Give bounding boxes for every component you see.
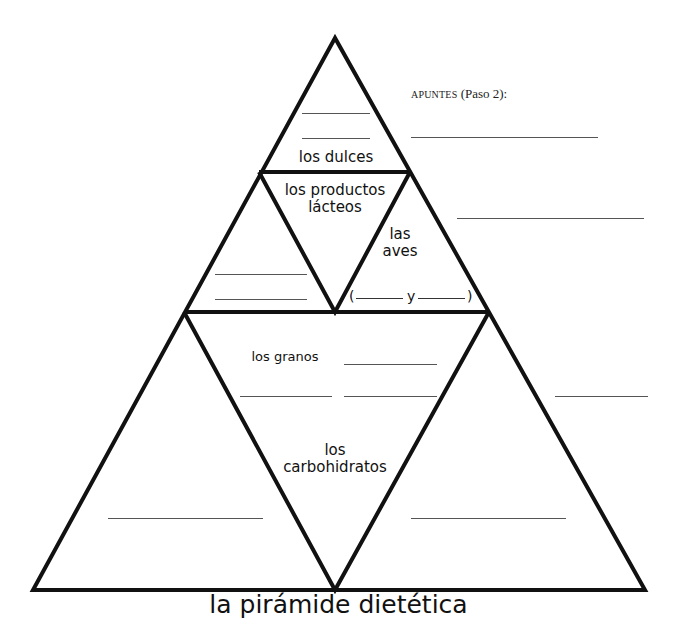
blank-line-notes-3[interactable] (555, 396, 648, 397)
notes-label: APUNTES (Paso 2): (411, 86, 507, 102)
paren-close: ) (467, 288, 472, 304)
paren-open: ( (349, 288, 354, 304)
word-y: y (407, 288, 415, 304)
label-dairy: los productos lácteos (265, 182, 405, 217)
blank-line-grains-2[interactable] (240, 396, 332, 397)
label-dairy-line2: lácteos (265, 199, 405, 216)
notes-label-rest: (Paso 2): (457, 86, 507, 101)
poultry-blank-1[interactable] (356, 298, 403, 299)
pyramid-outline (0, 0, 677, 637)
blank-line-top-1[interactable] (302, 113, 370, 114)
label-sweets: los dulces (276, 149, 396, 166)
label-poultry-line1: las (370, 226, 430, 243)
poultry-blank-group: ( y ) (349, 288, 473, 306)
label-carbs-line1: los (260, 442, 410, 459)
label-poultry-line2: aves (370, 243, 430, 260)
blank-line-bottom-right[interactable] (411, 518, 566, 519)
blank-line-left-2[interactable] (215, 299, 307, 300)
label-carbs: los carbohidratos (260, 442, 410, 477)
blank-line-notes-2[interactable] (457, 218, 644, 219)
notes-label-caps: APUNTES (411, 89, 457, 100)
blank-line-grains-3[interactable] (344, 396, 437, 397)
blank-line-left-1[interactable] (215, 274, 307, 275)
label-grains: los granos (240, 350, 330, 365)
blank-line-bottom-left[interactable] (108, 518, 263, 519)
blank-line-notes-1[interactable] (411, 137, 598, 138)
label-poultry: las aves (370, 226, 430, 261)
label-dairy-line1: los productos (265, 182, 405, 199)
poultry-blank-2[interactable] (418, 298, 465, 299)
blank-line-grains-1[interactable] (344, 364, 437, 365)
label-carbs-line2: carbohidratos (260, 459, 410, 476)
diagram-title: la pirámide dietética (0, 590, 677, 619)
blank-line-top-2[interactable] (302, 138, 370, 139)
